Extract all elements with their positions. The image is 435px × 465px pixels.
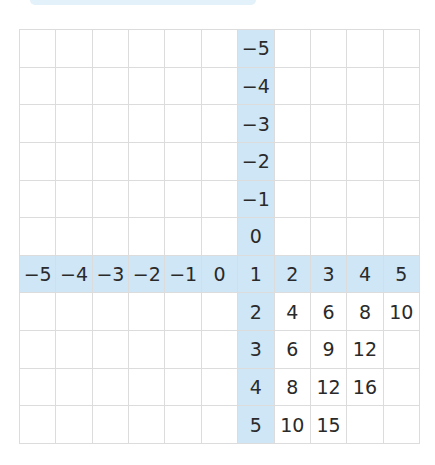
grid-cell: 6	[275, 331, 311, 369]
grid-cell	[384, 369, 420, 407]
grid-cell	[129, 68, 165, 106]
grid-cell	[347, 181, 383, 219]
grid-cell: 10	[275, 406, 311, 444]
grid-cell	[93, 30, 129, 68]
grid-cell	[56, 105, 92, 143]
grid-cell	[56, 143, 92, 181]
header-cell: 4	[347, 256, 383, 294]
grid-cell: 10	[384, 293, 420, 331]
grid-cell	[311, 218, 347, 256]
grid-cell	[202, 369, 238, 407]
header-cell: 3	[238, 331, 274, 369]
header-cell: 5	[238, 406, 274, 444]
grid-cell	[129, 406, 165, 444]
grid-cell	[20, 293, 56, 331]
grid-cell	[129, 293, 165, 331]
grid-cell	[20, 369, 56, 407]
grid-cell	[275, 105, 311, 143]
grid-cell	[20, 68, 56, 106]
grid-cell	[311, 105, 347, 143]
grid-cell: 9	[311, 331, 347, 369]
header-cell: 5	[384, 256, 420, 294]
grid-cell	[347, 105, 383, 143]
header-cell: 0	[238, 218, 274, 256]
grid-cell	[165, 331, 201, 369]
grid-cell	[129, 143, 165, 181]
grid-cell	[20, 406, 56, 444]
header-cell: −4	[238, 68, 274, 106]
grid-cell	[202, 105, 238, 143]
grid-cell	[20, 105, 56, 143]
grid-cell	[347, 218, 383, 256]
grid-cell: 12	[347, 331, 383, 369]
grid-cell	[56, 406, 92, 444]
grid-cell: 8	[275, 369, 311, 407]
grid-cell	[165, 30, 201, 68]
grid-cell	[56, 369, 92, 407]
grid-cell	[56, 331, 92, 369]
header-cell: 2	[275, 256, 311, 294]
grid-cell	[275, 30, 311, 68]
grid-cell	[93, 406, 129, 444]
grid-cell	[129, 369, 165, 407]
grid-cell: 15	[311, 406, 347, 444]
grid-cell: 4	[275, 293, 311, 331]
grid-cell	[202, 406, 238, 444]
grid-cell	[347, 406, 383, 444]
grid-cell	[275, 68, 311, 106]
header-cell: −2	[238, 143, 274, 181]
header-cell: −5	[238, 30, 274, 68]
header-cell: −3	[238, 105, 274, 143]
grid-cell	[93, 293, 129, 331]
header-cell: −1	[165, 256, 201, 294]
grid-cell	[384, 143, 420, 181]
grid-cell	[275, 218, 311, 256]
grid-cell	[165, 68, 201, 106]
grid-cell	[93, 68, 129, 106]
grid-cell	[20, 143, 56, 181]
grid-cell	[20, 181, 56, 219]
grid-cell	[56, 68, 92, 106]
grid-cell	[20, 331, 56, 369]
header-cell: −2	[129, 256, 165, 294]
grid-cell	[384, 105, 420, 143]
grid-cell	[93, 181, 129, 219]
grid-cell	[93, 105, 129, 143]
grid-cell: 16	[347, 369, 383, 407]
grid-cell	[129, 331, 165, 369]
grid-cell	[165, 406, 201, 444]
grid-cell	[129, 181, 165, 219]
grid-cell	[165, 293, 201, 331]
grid-cell	[20, 218, 56, 256]
grid-cell	[202, 30, 238, 68]
grid-cell	[56, 181, 92, 219]
grid-cell	[384, 30, 420, 68]
grid-cell	[129, 30, 165, 68]
grid-cell	[311, 68, 347, 106]
header-cell: 1	[238, 256, 274, 294]
grid-cell	[384, 68, 420, 106]
decorative-header-band	[30, 0, 256, 5]
header-cell: 4	[238, 369, 274, 407]
grid-cell	[311, 181, 347, 219]
grid-cell	[347, 68, 383, 106]
grid-cell	[202, 143, 238, 181]
grid-cell	[56, 293, 92, 331]
header-cell: 0	[202, 256, 238, 294]
grid-cell	[202, 293, 238, 331]
multiplication-grid: −5−4−3−2−10−5−4−3−2−10123452468103691248…	[19, 29, 420, 444]
grid-cell	[93, 218, 129, 256]
grid-cell	[165, 105, 201, 143]
header-cell: −1	[238, 181, 274, 219]
grid-cell	[129, 105, 165, 143]
grid-cell	[93, 369, 129, 407]
grid-cell	[311, 143, 347, 181]
grid-cell	[275, 181, 311, 219]
grid-cell	[20, 30, 56, 68]
grid-cell	[347, 143, 383, 181]
grid-cell	[202, 68, 238, 106]
grid-cell	[165, 218, 201, 256]
grid-cell	[56, 30, 92, 68]
grid-cell	[384, 218, 420, 256]
grid-cell	[275, 143, 311, 181]
